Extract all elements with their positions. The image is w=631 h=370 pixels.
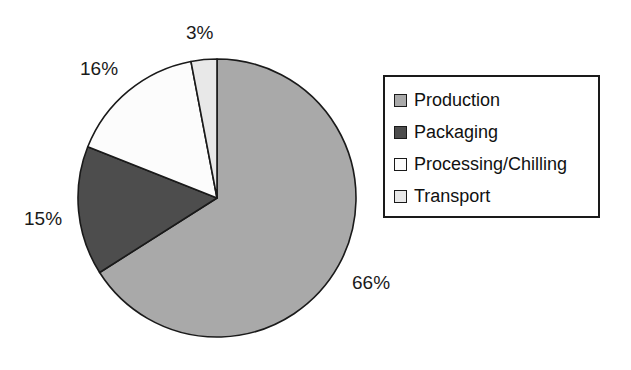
data-label-production: 66% xyxy=(352,272,390,294)
legend-swatch-icon-transport xyxy=(394,190,407,203)
data-label-transport: 3% xyxy=(186,22,213,44)
legend-swatch-icon-production xyxy=(394,94,407,107)
legend-swatch-icon-processing-chilling xyxy=(394,158,407,171)
data-label-processing-chilling: 16% xyxy=(80,58,118,80)
legend-item-processing-chilling[interactable]: Processing/Chilling xyxy=(394,148,598,180)
legend-item-transport[interactable]: Transport xyxy=(394,180,598,212)
pie-svg xyxy=(0,0,400,370)
legend-item-packaging[interactable]: Packaging xyxy=(394,116,598,148)
data-label-packaging: 15% xyxy=(24,208,62,230)
chart-legend: Production Packaging Processing/Chilling… xyxy=(383,75,600,218)
pie-chart-figure: 3% 16% 15% 66% Production Packaging Proc… xyxy=(0,0,631,370)
pie-slice-group xyxy=(78,59,356,337)
pie-plot-area: 3% 16% 15% 66% xyxy=(0,0,400,370)
legend-label-production: Production xyxy=(414,91,500,109)
legend-swatch-icon-packaging xyxy=(394,126,407,139)
legend-label-transport: Transport xyxy=(414,187,490,205)
legend-label-packaging: Packaging xyxy=(414,123,498,141)
legend-item-production[interactable]: Production xyxy=(394,84,598,116)
legend-label-processing-chilling: Processing/Chilling xyxy=(414,155,567,173)
